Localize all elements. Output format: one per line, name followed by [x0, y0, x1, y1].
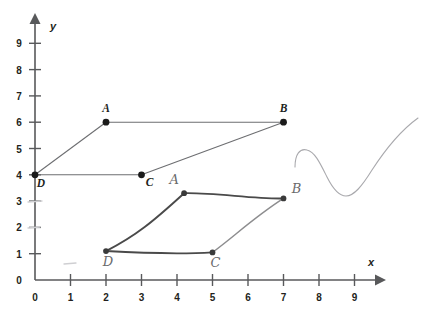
x-tick-label-5: 5 — [210, 292, 216, 303]
printed-edge-DA — [35, 122, 106, 175]
hand-drawn-parallelogram-abcd: ABCD — [102, 172, 302, 270]
x-tick-label-3: 3 — [139, 292, 145, 303]
hand-vertex-label-C: C — [211, 255, 221, 270]
hand-vertex-label-B: B — [291, 181, 302, 196]
x-tick-label-0: 0 — [32, 292, 38, 303]
hand-edge-DA — [106, 193, 184, 251]
printed-vertex-label-C: C — [146, 176, 154, 188]
y-tick-label-7: 7 — [16, 91, 22, 102]
printed-edge-BC — [142, 122, 284, 175]
hand-edge-CD — [106, 251, 213, 253]
hand-vertex-label-A: A — [168, 172, 178, 187]
y-tick-label-1: 1 — [16, 249, 22, 260]
hand-vertex-label-D: D — [102, 254, 114, 269]
x-tick-label-4: 4 — [174, 292, 180, 303]
x-axis-arrowhead — [375, 275, 386, 286]
y-tick-label-2: 2 — [16, 222, 22, 233]
stray-pencil-curve — [295, 118, 418, 196]
y-tick-label-8: 8 — [16, 65, 22, 76]
x-axis-ticks: 0123456789 — [32, 274, 358, 303]
y-tick-label-3: 3 — [16, 196, 22, 207]
y-tick-label-5: 5 — [16, 144, 22, 155]
y-tick-label-9: 9 — [16, 38, 22, 49]
printed-vertex-B — [280, 119, 287, 126]
y-axis-label: y — [49, 20, 57, 32]
x-tick-label-1: 1 — [68, 292, 74, 303]
printed-vertex-label-B: B — [279, 102, 288, 114]
y-tick-label-4: 4 — [16, 170, 22, 181]
x-tick-label-7: 7 — [281, 292, 287, 303]
printed-vertex-label-D: D — [36, 177, 46, 189]
hand-edge-BC — [213, 198, 284, 252]
axes-group — [30, 13, 387, 286]
x-axis-label: x — [367, 256, 375, 268]
hand-vertex-A — [181, 190, 187, 196]
printed-vertex-C — [138, 171, 145, 178]
printed-vertex-A — [103, 119, 110, 126]
x-tick-label-6: 6 — [245, 292, 251, 303]
y-tick-label-6: 6 — [16, 117, 22, 128]
x-tick-label-2: 2 — [103, 292, 109, 303]
coordinate-plane-figure: 0123456789 0123456789 x y ABCD ABCD — [0, 0, 440, 310]
printed-vertex-label-A: A — [101, 102, 110, 114]
printed-parallelogram-abcd: ABCD — [32, 102, 288, 189]
y-axis-ticks: 0123456789 — [16, 38, 41, 286]
hand-edge-AB — [184, 193, 283, 198]
x-tick-label-9: 9 — [352, 292, 358, 303]
hand-vertex-B — [281, 196, 287, 202]
y-tick-label-0: 0 — [16, 275, 22, 286]
y-axis-arrowhead — [30, 13, 41, 24]
x-tick-label-8: 8 — [316, 292, 322, 303]
